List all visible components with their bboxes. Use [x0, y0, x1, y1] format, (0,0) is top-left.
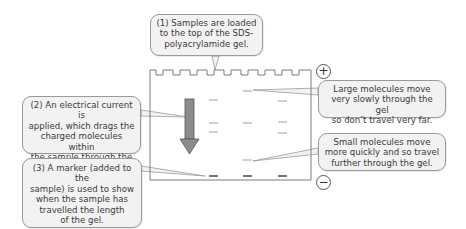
callout-marker: (3) A marker (added to the sample) is us… [22, 158, 142, 228]
callout-line: Large molecules move [324, 84, 440, 94]
callout-line: to the top of the SDS- [156, 28, 257, 38]
small-molecules-pointer [253, 148, 318, 161]
step3-pointer [141, 166, 205, 176]
callout-large-molecules: Large molecules move very slowly through… [318, 80, 446, 118]
callout-line: when the sample has [28, 194, 136, 204]
callout-line: polyacrylamide gel. [156, 39, 257, 49]
current-direction-arrow [180, 99, 199, 154]
step2-pointer [141, 110, 188, 117]
callout-line: of the gel. [28, 215, 136, 225]
callout-line: (1) Samples are loaded [156, 18, 257, 28]
callout-line: sample) is used to show [28, 184, 136, 194]
callout-line: so don’t travel very far. [324, 115, 440, 125]
callout-line: more quickly and so travel [324, 147, 440, 157]
large-molecules-pointer [253, 88, 318, 95]
callout-line: very slowly through the gel [324, 94, 440, 115]
callout-line: travelled the length [28, 205, 136, 215]
callout-electrical-current: (2) An electrical current is applied, wh… [22, 96, 141, 154]
callout-line: (3) A marker (added to the [28, 163, 136, 184]
positive-electrode-icon: + [316, 64, 331, 79]
callout-line: (2) An electrical current is [28, 100, 135, 121]
negative-electrode-icon: − [316, 175, 331, 190]
gel-electrophoresis-diagram: (1) Samples are loaded to the top of the… [0, 0, 466, 229]
callout-line: charged molecules within [28, 131, 135, 152]
gel-outline [150, 70, 311, 180]
callout-samples-loaded: (1) Samples are loaded to the top of the… [150, 14, 263, 56]
callout-line: applied, which drags the [28, 121, 135, 131]
callout-line: further through the gel. [324, 158, 440, 168]
protein-bands [209, 91, 287, 160]
step1-pointer [212, 56, 219, 70]
callout-line: Small molecules move [324, 137, 440, 147]
callout-small-molecules: Small molecules move more quickly and so… [318, 133, 446, 171]
